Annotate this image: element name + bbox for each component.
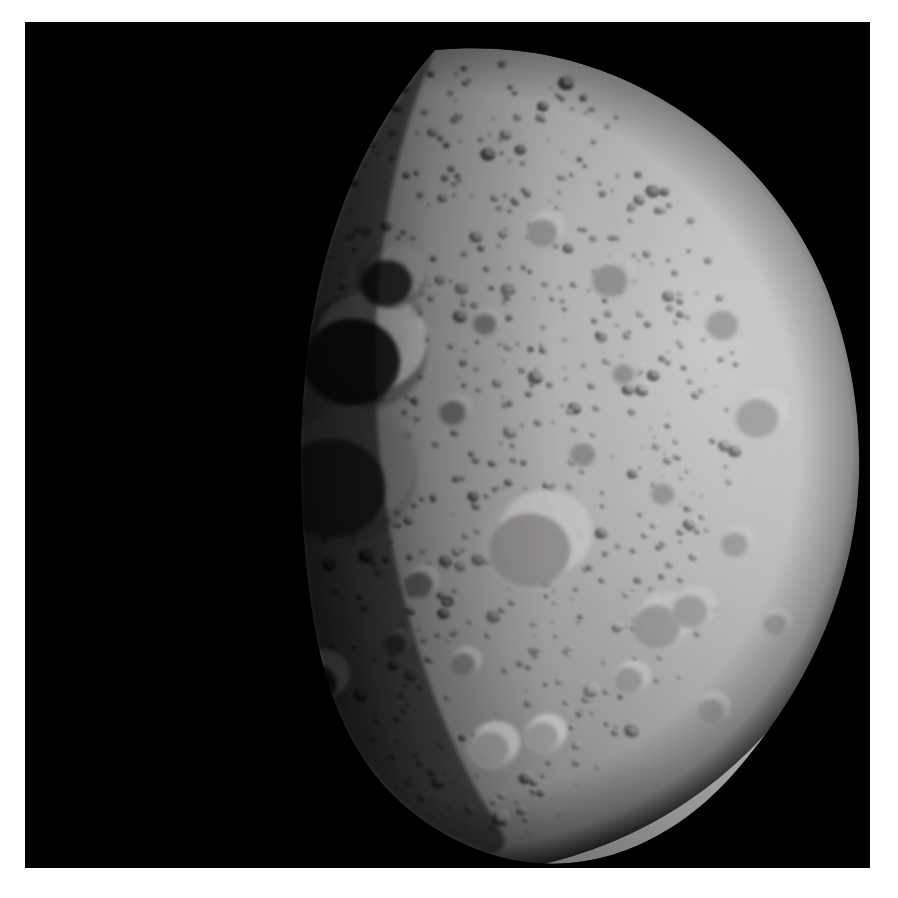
page-root — [0, 0, 898, 898]
space-photo-frame — [25, 22, 870, 868]
asteroid-scene — [25, 22, 870, 868]
